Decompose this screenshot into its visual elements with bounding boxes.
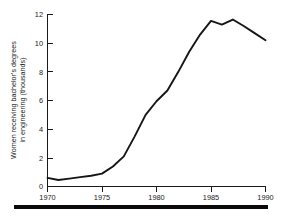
y-axis-title: Women receiving bachelor's degrees in en… [9, 41, 27, 159]
x-tick-label: 1980 [148, 193, 164, 202]
line-chart: 12 10 8 6 4 2 0 1970 1975 1980 1985 1990… [0, 0, 284, 217]
y-axis-title-line-2: in engineering (thousands) [18, 57, 27, 142]
y-tick-label: 8 [39, 68, 43, 77]
y-tick-label: 4 [39, 125, 43, 134]
y-tick-label: 12 [35, 10, 43, 19]
y-tick-label: 10 [35, 39, 43, 48]
x-tick-label: 1970 [39, 193, 55, 202]
y-tick-label: 0 [39, 182, 43, 191]
x-tick-label: 1985 [203, 193, 219, 202]
footer-rule [14, 205, 268, 209]
y-axis-title-line-1: Women receiving bachelor's degrees [9, 41, 18, 159]
y-tick-label: 2 [39, 154, 43, 163]
chart-container: 12 10 8 6 4 2 0 1970 1975 1980 1985 1990… [0, 0, 284, 217]
y-tick-label: 6 [39, 96, 43, 105]
x-tick-label: 1975 [94, 193, 110, 202]
x-tick-label: 1990 [257, 193, 273, 202]
